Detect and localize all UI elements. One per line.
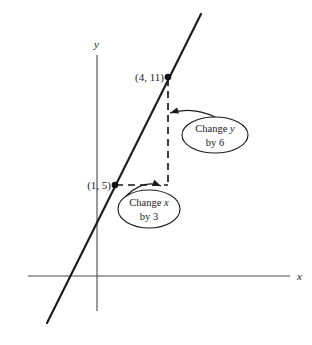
callout-ellipse-change-x xyxy=(118,190,180,228)
callout-change-y-line2: by 6 xyxy=(206,137,224,148)
callout-arrowhead-change-y xyxy=(170,107,179,113)
callout-change-x-line1: Change x xyxy=(129,197,169,208)
callout-change-x-line2: by 3 xyxy=(140,211,158,222)
plotted-line xyxy=(47,14,201,323)
callout-arrowhead-change-x xyxy=(152,180,161,186)
point-label-1-5: (1, 5) xyxy=(87,179,111,192)
point-marker-4-11 xyxy=(165,74,172,81)
callout-change-y-line1: Change y xyxy=(195,123,235,134)
point-label-4-11: (4, 11) xyxy=(135,71,164,84)
coordinate-plane-svg: x y (4, 11) (1, 5) Change y by 6 Change … xyxy=(0,0,312,345)
x-axis-label: x xyxy=(296,270,302,282)
graph-figure: x y (4, 11) (1, 5) Change y by 6 Change … xyxy=(0,0,312,345)
point-marker-1-5 xyxy=(112,182,119,189)
y-axis-label: y xyxy=(93,38,99,50)
